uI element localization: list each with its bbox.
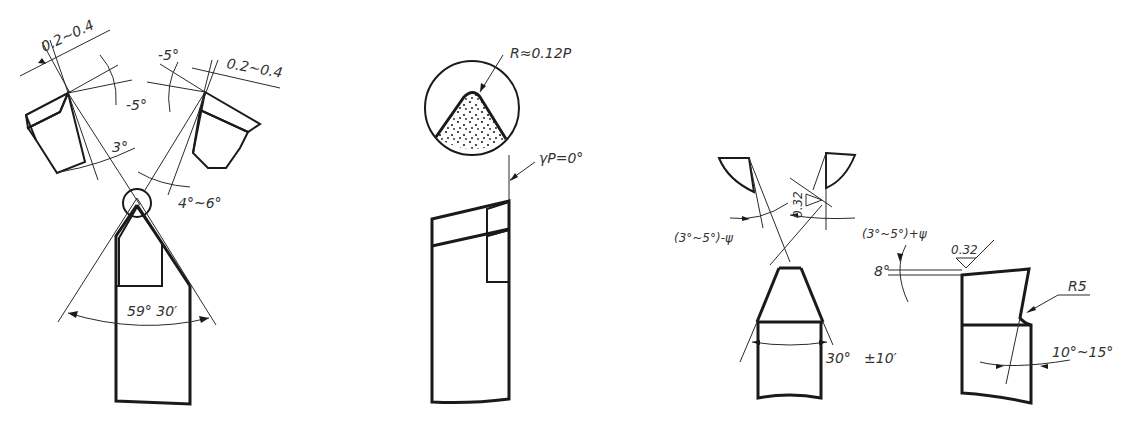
tip-radius-label: R≈0.12P [510,45,572,61]
flank-roughness-label: 0.32 [791,191,805,218]
tool-body-1 [58,198,216,404]
side-view [888,240,1090,403]
right-section [138,60,280,195]
clearance-left-label: 3° [112,139,128,155]
tool-angle-30-label: 30° [826,350,851,366]
land-width-left-label: 0.2~0.4 [39,16,97,54]
top-roughness-label: 0.32 [951,243,978,257]
rake-left-label: -5° [126,97,147,113]
view-1-carbide-thread-tool: 0.2~0.4 -5° 3° -5° 0.2~0.4 4°~6° [20,16,284,404]
tool-body-3 [740,268,833,398]
thread-tool-drawing: 0.2~0.4 -5° 3° -5° 0.2~0.4 4°~6° [0,0,1134,433]
view-3-hss-thread-tool: (3°~5°)-ψ 0.32 30° ±10′ [674,153,1113,403]
right-clearance-label: (3°~5°)+ψ [862,227,928,241]
land-width-right-label: 0.2~0.4 [225,55,283,81]
fillet-radius-label: R5 [1068,278,1087,294]
left-clearance-label: (3°~5°)-ψ [674,231,734,245]
tool-body-2 [432,201,509,403]
top-rake-label: 8° [874,263,890,279]
tool-angle-label: 59° 30′ [127,303,178,319]
tolerance-label: ±10′ [864,350,898,366]
left-section [20,30,140,205]
clearance-right-label: 4°~6° [178,195,222,211]
rake-angle-label: γP=0° [539,150,583,166]
rake-right-label: -5° [158,47,179,63]
view-2-tip-detail: R≈0.12P γP=0° [425,45,583,403]
front-clearance-label: 10°~15° [1052,344,1113,360]
